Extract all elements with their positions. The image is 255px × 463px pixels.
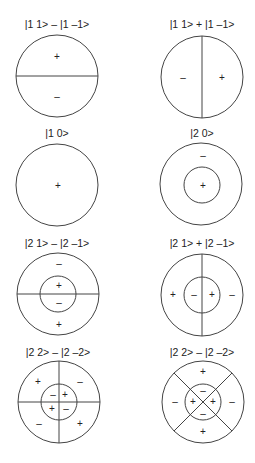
sign-plus: +: [55, 180, 61, 191]
sign-minus: –: [180, 72, 186, 83]
sign-minus: –: [200, 150, 206, 161]
panel-p7: |2 2> – |2 –2> + – – + + – – +: [18, 346, 100, 443]
panel-label: |2 2> – |2 –2>: [26, 346, 90, 358]
sign-plus: +: [210, 396, 216, 407]
sign-minus: –: [77, 376, 83, 387]
sign-plus: +: [56, 280, 62, 291]
sign-minus: –: [200, 408, 206, 419]
sign-plus: +: [49, 403, 55, 414]
panel-label: |2 1> + |2 –1>: [170, 237, 235, 249]
sign-minus: –: [50, 389, 56, 400]
sign-plus: +: [190, 396, 196, 407]
panel-p2: |1 1> + |1 –1> – +: [161, 18, 243, 118]
panel-label: |1 0>: [45, 127, 68, 139]
sign-minus: –: [56, 297, 62, 308]
panel-p3: |1 0> +: [16, 127, 98, 226]
sign-plus: +: [219, 72, 225, 83]
sign-minus: –: [172, 396, 178, 407]
orbital-diagram: |1 1> – |1 –1> + – |1 1> + |1 –1> – + |1…: [0, 0, 255, 463]
panel-p8: |2 2> – |2 –2> + – – + + – – +: [162, 346, 244, 443]
panel-p6: |2 1> + |2 –1> + – + –: [161, 237, 243, 336]
panel-p5: |2 1> – |2 –1> – + – +: [17, 237, 99, 335]
sign-minus: –: [191, 289, 197, 300]
panel-p4: |2 0> – +: [160, 127, 242, 225]
sign-plus: +: [62, 389, 68, 400]
sign-minus: –: [200, 385, 206, 396]
panel-label: |2 1> – |2 –1>: [25, 237, 89, 249]
sign-minus: –: [56, 258, 62, 269]
sign-plus: +: [54, 51, 60, 62]
panel-label: |1 1> – |1 –1>: [25, 18, 89, 30]
sign-plus: +: [200, 180, 206, 191]
sign-plus: +: [35, 376, 41, 387]
panel-label: |1 1> + |1 –1>: [170, 18, 235, 30]
sign-plus: +: [56, 319, 62, 330]
panel-label: |2 0>: [190, 127, 213, 139]
sign-minus: –: [229, 289, 235, 300]
sign-plus: +: [200, 366, 206, 377]
sign-minus: –: [63, 403, 69, 414]
sign-minus: –: [36, 418, 42, 429]
panel-label: |2 2> – |2 –2>: [170, 346, 234, 358]
sign-minus: –: [54, 91, 60, 102]
sign-minus: –: [229, 396, 235, 407]
sign-plus: +: [209, 289, 215, 300]
sign-plus: +: [77, 418, 83, 429]
panel-p1: |1 1> – |1 –1> + –: [16, 18, 98, 117]
sign-plus: +: [200, 426, 206, 437]
sign-plus: +: [170, 289, 176, 300]
